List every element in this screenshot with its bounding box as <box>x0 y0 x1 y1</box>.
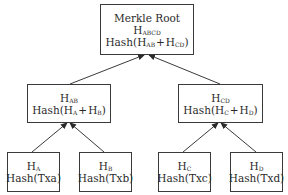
root-title: Merkle Root <box>114 12 180 24</box>
leaf-b-hash-label: HB <box>99 160 113 172</box>
hab-hash-label: HAB <box>60 92 78 104</box>
hcd-hash-label: HCD <box>211 92 230 104</box>
edge-leaf-c-to-hcd <box>183 123 218 152</box>
leaf-node-b: HB Hash(Txb) <box>79 152 132 192</box>
leaf-d-hash-label: HD <box>250 160 264 172</box>
leaf-node-d: HD Hash(Txd) <box>230 152 283 192</box>
edge-hab-to-root <box>70 55 144 84</box>
leaf-node-c: HC Hash(Txc) <box>158 152 211 192</box>
leaf-c-formula: Hash(Txc) <box>157 172 212 184</box>
edge-hcd-to-root <box>149 55 220 84</box>
node-h-ab: HAB Hash(HA+HB) <box>27 84 111 123</box>
leaf-c-hash-label: HC <box>178 160 192 172</box>
leaf-a-hash-label: HA <box>27 160 41 172</box>
edge-leaf-b-to-hab <box>70 123 104 152</box>
hcd-formula: Hash(HC+HD) <box>183 104 257 116</box>
node-h-cd: HCD Hash(HC+HD) <box>178 84 263 123</box>
edge-leaf-a-to-hab <box>32 123 67 152</box>
leaf-d-formula: Hash(Txd) <box>229 172 284 184</box>
leaf-node-a: HA Hash(Txa) <box>7 152 60 192</box>
root-formula: Hash(HAB+HCD) <box>105 36 188 48</box>
root-hash-label: HABCD <box>133 24 160 36</box>
edge-leaf-d-to-hcd <box>221 123 256 152</box>
leaf-a-formula: Hash(Txa) <box>6 172 61 184</box>
leaf-b-formula: Hash(Txb) <box>78 172 133 184</box>
hab-formula: Hash(HA+HB) <box>32 104 106 116</box>
merkle-root-node: Merkle Root HABCD Hash(HAB+HCD) <box>100 4 194 55</box>
